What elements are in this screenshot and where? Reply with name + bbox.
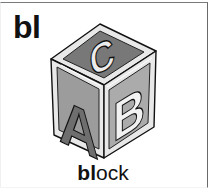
word-rest-part: ock (96, 161, 129, 184)
example-word: block (1, 161, 205, 185)
word-blend-part: bl (77, 161, 96, 184)
flashcard: bl A B C block (0, 2, 208, 188)
